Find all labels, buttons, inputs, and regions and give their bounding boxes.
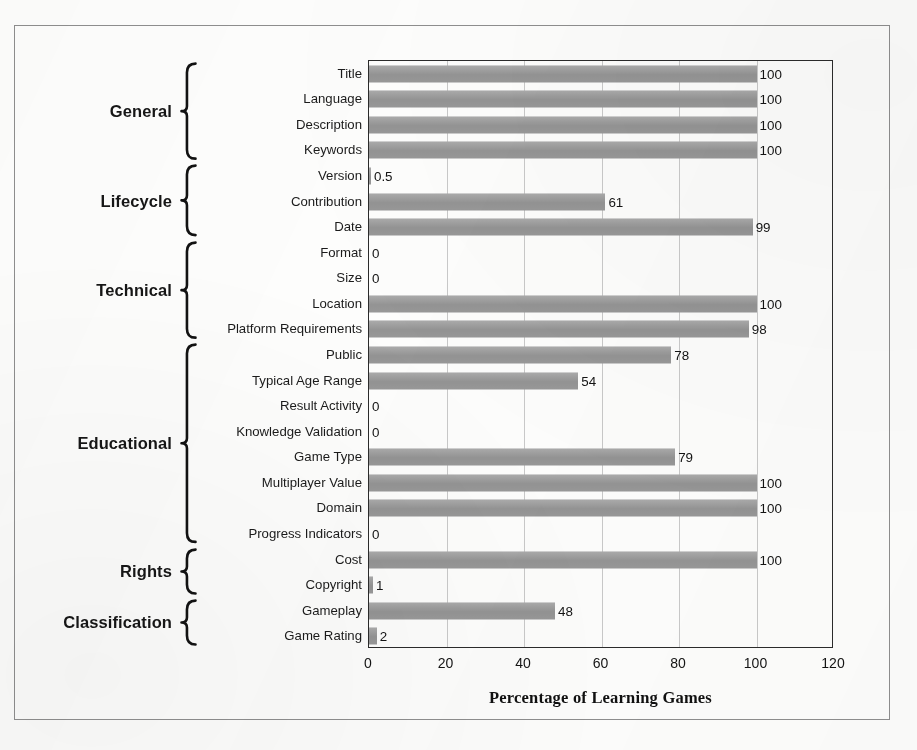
x-tick-40: 40 (515, 655, 531, 671)
bar (369, 321, 749, 338)
group-label-general: General (110, 102, 172, 121)
bar-value-label: 100 (757, 501, 782, 516)
bar-value-label: 100 (757, 475, 782, 490)
category-label: Game Type (196, 449, 362, 464)
bar-value-label: 99 (753, 220, 771, 235)
bar (369, 65, 757, 82)
bar-value-label: 79 (675, 450, 693, 465)
category-label: Description (196, 116, 362, 131)
category-label: Keywords (196, 142, 362, 157)
x-tick-80: 80 (670, 655, 686, 671)
category-label: Cost (196, 551, 362, 566)
bar-value-label: 78 (671, 348, 689, 363)
group-label-classification: Classification (63, 613, 172, 632)
bar (369, 193, 605, 210)
bar-value-label: 100 (757, 296, 782, 311)
bar (369, 91, 757, 108)
category-label: Result Activity (196, 398, 362, 413)
category-label: Title (196, 65, 362, 80)
category-label: Contribution (196, 193, 362, 208)
group-label-rights: Rights (120, 562, 172, 581)
bar-value-label: 0 (369, 399, 379, 414)
bar-value-label: 0 (369, 245, 379, 260)
category-label: Knowledge Validation (196, 423, 362, 438)
bar (369, 347, 671, 364)
category-label: Format (196, 244, 362, 259)
bar-value-label: 2 (377, 629, 387, 644)
bar-value-label: 100 (757, 117, 782, 132)
category-label: Domain (196, 500, 362, 515)
bar (369, 500, 757, 517)
group-label-technical: Technical (96, 281, 172, 300)
category-label: Copyright (196, 577, 362, 592)
group-label-educational: Educational (77, 434, 172, 453)
bar (369, 372, 578, 389)
bar-value-label: 48 (555, 603, 573, 618)
category-label: Platform Requirements (196, 321, 362, 336)
category-label: Public (196, 347, 362, 362)
bar (369, 449, 675, 466)
category-label: Progress Indicators (196, 525, 362, 540)
bar-value-label: 100 (757, 552, 782, 567)
bar-value-label: 0.5 (371, 169, 393, 184)
bar (369, 295, 757, 312)
bar (369, 628, 377, 645)
bar-value-label: 100 (757, 66, 782, 81)
bar (369, 219, 753, 236)
bar-value-label: 0 (369, 526, 379, 541)
x-axis-tick-labels: 020406080100120 (368, 655, 833, 681)
category-label: Location (196, 295, 362, 310)
bar-value-label: 61 (605, 194, 623, 209)
category-label: Typical Age Range (196, 372, 362, 387)
x-tick-100: 100 (744, 655, 767, 671)
x-tick-60: 60 (593, 655, 609, 671)
bar-value-label: 54 (578, 373, 596, 388)
category-label: Size (196, 270, 362, 285)
bar-value-label: 1 (373, 578, 383, 593)
bar (369, 142, 757, 159)
bar (369, 602, 555, 619)
bar (369, 551, 757, 568)
x-tick-0: 0 (364, 655, 372, 671)
x-tick-20: 20 (438, 655, 454, 671)
bar (369, 474, 757, 491)
bar-value-label: 0 (369, 271, 379, 286)
x-axis-title: Percentage of Learning Games (368, 688, 833, 708)
bar-value-label: 100 (757, 92, 782, 107)
category-label: Version (196, 168, 362, 183)
bar-chart-figure: GeneralLifecycleTechnicalEducationalRigh… (0, 0, 917, 750)
figure-page: GeneralLifecycleTechnicalEducationalRigh… (0, 0, 917, 750)
category-label: Multiplayer Value (196, 474, 362, 489)
bar-value-label: 98 (749, 322, 767, 337)
category-label: Game Rating (196, 628, 362, 643)
category-label-column: TitleLanguageDescriptionKeywordsVersionC… (196, 0, 362, 750)
group-label-lifecycle: Lifecycle (100, 191, 172, 210)
bar-value-label: 100 (757, 143, 782, 158)
group-label-column: GeneralLifecycleTechnicalEducationalRigh… (20, 0, 172, 750)
x-tick-120: 120 (821, 655, 844, 671)
category-label: Gameplay (196, 602, 362, 617)
category-label: Language (196, 91, 362, 106)
bar-value-label: 0 (369, 424, 379, 439)
bar (369, 116, 757, 133)
category-label: Date (196, 219, 362, 234)
plot-area: 1001001001000.56199001009878540079100100… (368, 60, 833, 648)
